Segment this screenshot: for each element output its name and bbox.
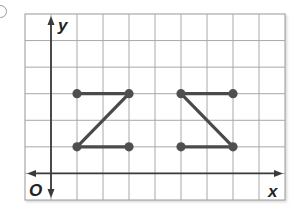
point-series-0 [72,89,81,98]
point-series-1 [176,142,185,151]
point-series-0 [124,89,133,98]
y-axis-label: y [57,16,69,35]
point-series-0 [72,142,81,151]
point-series-1 [228,89,237,98]
point-series-1 [228,142,237,151]
point-series-0 [124,142,133,151]
origin-label: O [29,181,42,200]
coordinate-grid-figure: y x O [0,0,293,211]
point-series-1 [176,89,185,98]
x-axis-label: x [267,182,279,201]
